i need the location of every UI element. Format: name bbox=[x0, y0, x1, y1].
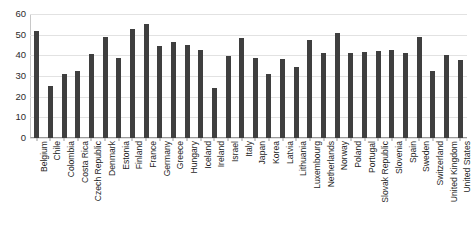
bar bbox=[212, 88, 217, 138]
bar bbox=[62, 74, 67, 138]
x-axis-label-slot: Spain bbox=[399, 141, 413, 237]
bar-slot bbox=[371, 14, 385, 138]
bar bbox=[458, 60, 463, 138]
bar bbox=[144, 24, 149, 138]
y-axis-tick-label: 60 bbox=[15, 9, 26, 19]
bar-slot bbox=[385, 14, 399, 138]
y-axis-tick-label: 0 bbox=[21, 133, 26, 143]
x-axis-label-slot: Italy bbox=[235, 141, 249, 237]
bar bbox=[226, 56, 231, 138]
bar-chart: 0102030405060 BelgiumChileColombiaCosta … bbox=[0, 0, 473, 239]
bar bbox=[335, 33, 340, 138]
bar-slot bbox=[399, 14, 413, 138]
x-axis-label-slot: France bbox=[139, 141, 153, 237]
x-axis-label-slot: Portugal bbox=[358, 141, 372, 237]
bar-slot bbox=[194, 14, 208, 138]
bar-slot bbox=[276, 14, 290, 138]
x-axis-label-slot: Hungary bbox=[180, 141, 194, 237]
bar bbox=[116, 58, 121, 138]
bar-slot bbox=[57, 14, 71, 138]
bar-slot bbox=[71, 14, 85, 138]
bar bbox=[376, 51, 381, 138]
bar-slot bbox=[262, 14, 276, 138]
x-axis-label-slot: Czech Republic bbox=[85, 141, 99, 237]
bar bbox=[239, 38, 244, 138]
bar bbox=[280, 59, 285, 138]
bar-slot bbox=[167, 14, 181, 138]
bar bbox=[171, 42, 176, 139]
x-axis-label-slot: Costa Rica bbox=[71, 141, 85, 237]
bar bbox=[185, 45, 190, 138]
x-axis-label-slot: United Kingdom bbox=[440, 141, 454, 237]
bar-slot bbox=[453, 14, 467, 138]
bar-slot bbox=[221, 14, 235, 138]
y-axis-tick-label: 10 bbox=[15, 113, 26, 123]
bar-slot bbox=[440, 14, 454, 138]
bar-slot bbox=[98, 14, 112, 138]
x-axis-label-slot: Korea bbox=[262, 141, 276, 237]
bar-slot bbox=[249, 14, 263, 138]
bar-slot bbox=[153, 14, 167, 138]
bar-slot bbox=[126, 14, 140, 138]
bar-slot bbox=[317, 14, 331, 138]
bar bbox=[130, 29, 135, 138]
bar-slot bbox=[180, 14, 194, 138]
bar bbox=[253, 58, 258, 138]
bar bbox=[75, 71, 80, 138]
bar-slot bbox=[289, 14, 303, 138]
bar bbox=[157, 46, 162, 138]
bar bbox=[103, 37, 108, 138]
gridline bbox=[30, 138, 467, 139]
x-axis-label: United States bbox=[463, 141, 472, 193]
bar-slot bbox=[30, 14, 44, 138]
x-axis-label-slot: Japan bbox=[249, 141, 263, 237]
bar bbox=[34, 31, 39, 138]
x-axis-label-slot: Estonia bbox=[112, 141, 126, 237]
bar-slot bbox=[426, 14, 440, 138]
x-axis-label-slot: Denmark bbox=[98, 141, 112, 237]
x-axis-label-slot: Latvia bbox=[276, 141, 290, 237]
y-axis-tick-label: 50 bbox=[15, 30, 26, 40]
bar-slot bbox=[208, 14, 222, 138]
x-axis-label-slot: Netherlands bbox=[317, 141, 331, 237]
bar bbox=[444, 55, 449, 138]
bar-slot bbox=[303, 14, 317, 138]
x-axis-label-slot: Switzerland bbox=[426, 141, 440, 237]
bar-slot bbox=[235, 14, 249, 138]
x-axis-label-slot: Norway bbox=[330, 141, 344, 237]
y-axis-tick-label: 20 bbox=[15, 92, 26, 102]
bar bbox=[266, 74, 271, 138]
bars-group bbox=[30, 14, 467, 138]
x-axis-label-slot: Belgium bbox=[30, 141, 44, 237]
bar bbox=[430, 71, 435, 138]
bar-slot bbox=[139, 14, 153, 138]
x-axis-label-slot: Finland bbox=[126, 141, 140, 237]
x-axis-label-slot: Iceland bbox=[194, 141, 208, 237]
x-axis-label-slot: Slovenia bbox=[385, 141, 399, 237]
bar bbox=[389, 50, 394, 138]
bar bbox=[362, 52, 367, 138]
x-axis-label-slot: Luxembourg bbox=[303, 141, 317, 237]
x-axis-label-slot: Poland bbox=[344, 141, 358, 237]
bar bbox=[307, 40, 312, 138]
x-axis-label-slot: United States bbox=[453, 141, 467, 237]
bar-slot bbox=[412, 14, 426, 138]
bar-slot bbox=[44, 14, 58, 138]
bar-slot bbox=[112, 14, 126, 138]
x-axis-label-slot: Greece bbox=[167, 141, 181, 237]
y-axis-tick-label: 30 bbox=[15, 71, 26, 81]
bar bbox=[198, 50, 203, 138]
bar bbox=[348, 53, 353, 138]
x-axis-label-slot: Chile bbox=[44, 141, 58, 237]
x-axis-labels: BelgiumChileColombiaCosta RicaCzech Repu… bbox=[30, 141, 467, 237]
x-axis-label-slot: Slovak Republic bbox=[371, 141, 385, 237]
bar bbox=[403, 53, 408, 138]
x-axis-label-slot: Germany bbox=[153, 141, 167, 237]
bar-slot bbox=[85, 14, 99, 138]
bar-slot bbox=[330, 14, 344, 138]
x-axis-label-slot: Ireland bbox=[208, 141, 222, 237]
bar bbox=[417, 37, 422, 138]
plot-area: 0102030405060 bbox=[30, 14, 467, 138]
x-axis-label-slot: Colombia bbox=[57, 141, 71, 237]
bar-slot bbox=[344, 14, 358, 138]
